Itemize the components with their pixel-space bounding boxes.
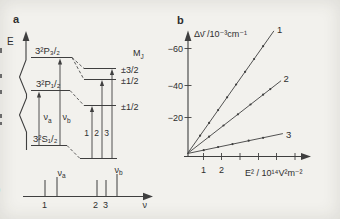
x-axis-arrowhead — [301, 153, 311, 160]
transition-3-arrowhead — [110, 69, 114, 75]
series-3-point — [262, 137, 264, 139]
transition-1-number: 1 — [84, 128, 89, 138]
connector-p32-to-mj32 — [72, 58, 84, 69]
figure: ) a E 3²P₃/₂ 3²P₁/₂ 3²S₁/₂ MJ ±3/2 ±1/2 … — [0, 0, 340, 219]
series-3-point — [248, 140, 250, 142]
connector-p32-to-mj12 — [72, 58, 84, 80]
series-1-point — [208, 122, 210, 124]
y-tick-label-20: −20 — [168, 113, 183, 123]
series-1-point — [253, 58, 255, 60]
spectrum: ν 1 2 3 νa νb — [23, 165, 153, 211]
series-1-point — [244, 71, 246, 73]
energy-axis: E — [7, 31, 29, 150]
series-label-1: 1 — [277, 24, 282, 35]
series-2-point — [269, 88, 271, 90]
series-2-point — [208, 136, 210, 138]
series-1-point — [199, 135, 201, 137]
nu-a-label: νa — [44, 112, 53, 124]
series-lines — [188, 31, 283, 154]
series-2-point — [249, 103, 251, 105]
series-2-point — [222, 124, 224, 126]
transition-3-number: 3 — [104, 128, 109, 138]
series-3-point — [231, 143, 233, 145]
spectrum-axis-label: ν — [143, 200, 148, 210]
page-edge-artifacts: ) — [0, 48, 2, 195]
levels-shifted — [80, 69, 117, 159]
mj-header: MJ — [133, 48, 144, 60]
series-3-point — [217, 146, 219, 148]
nu-a-arrowhead — [37, 92, 41, 98]
transition-2-arrowhead — [100, 80, 104, 86]
spectrum-label-1: 1 — [42, 200, 47, 210]
mj-value-12-upper: ±1/2 — [121, 76, 138, 86]
level-p32-label: 3²P₃/₂ — [35, 45, 60, 56]
spectrum-nu-b-label: νb — [115, 165, 124, 177]
connector-p12-to-mj12 — [70, 91, 84, 106]
series-2-point — [262, 94, 264, 96]
stark-transitions: 1 2 3 — [84, 69, 114, 158]
series-3-point — [203, 149, 205, 151]
plot-y-axis: Δν̄ /10⁻³cm⁻¹ −60 −40 −20 — [168, 29, 247, 156]
panel-a-label: a — [13, 13, 20, 25]
nu-b-arrowhead — [58, 59, 62, 65]
series-label-2: 2 — [284, 73, 289, 84]
y-tick-label-60: −60 — [168, 44, 183, 54]
energy-axis-line — [20, 38, 27, 150]
connector-s12-shift — [67, 146, 80, 159]
y-axis-arrowhead — [185, 31, 192, 42]
energy-axis-label: E — [7, 36, 14, 47]
series-1-point — [217, 109, 219, 111]
x-tick-label-1: 1 — [201, 165, 206, 175]
panel-b-label: b — [177, 14, 184, 26]
spectrum-nu-a-label: νa — [58, 168, 67, 180]
series-1-point — [262, 45, 264, 47]
series-2-point — [237, 113, 239, 115]
series-label-3: 3 — [286, 129, 291, 140]
x-axis-label: E² / 10¹⁴V²m⁻² — [245, 168, 303, 178]
series-line-3 — [188, 134, 283, 154]
series-line-2 — [188, 81, 282, 154]
mj-value-32: ±3/2 — [121, 65, 138, 75]
mj-value-12-lower: ±1/2 — [121, 102, 138, 112]
y-tick-label-40: −40 — [168, 81, 183, 91]
transition-2-number: 2 — [94, 128, 99, 138]
levels-unperturbed: 3²P₃/₂ 3²P₁/₂ 3²S₁/₂ — [31, 45, 72, 146]
nu-b-label: νb — [63, 112, 72, 124]
stark-shift-connectors — [67, 58, 84, 159]
x-tick-label-2: 2 — [219, 165, 224, 175]
series-1-point — [235, 83, 237, 85]
spectrum-label-3: 3 — [103, 200, 108, 210]
plot-x-axis: 1 2 E² / 10¹⁴V²m⁻² — [184, 153, 311, 178]
series-1-point — [226, 96, 228, 98]
mj-column: MJ ±3/2 ±1/2 ±1/2 — [121, 48, 144, 112]
level-p12-label: 3²P₁/₂ — [36, 78, 61, 89]
transition-1-arrowhead — [90, 106, 94, 112]
level-s12-label: 3²S₁/₂ — [33, 133, 58, 144]
y-axis-label: Δν̄ /10⁻³cm⁻¹ — [194, 29, 247, 39]
spectrum-label-2: 2 — [93, 200, 98, 210]
